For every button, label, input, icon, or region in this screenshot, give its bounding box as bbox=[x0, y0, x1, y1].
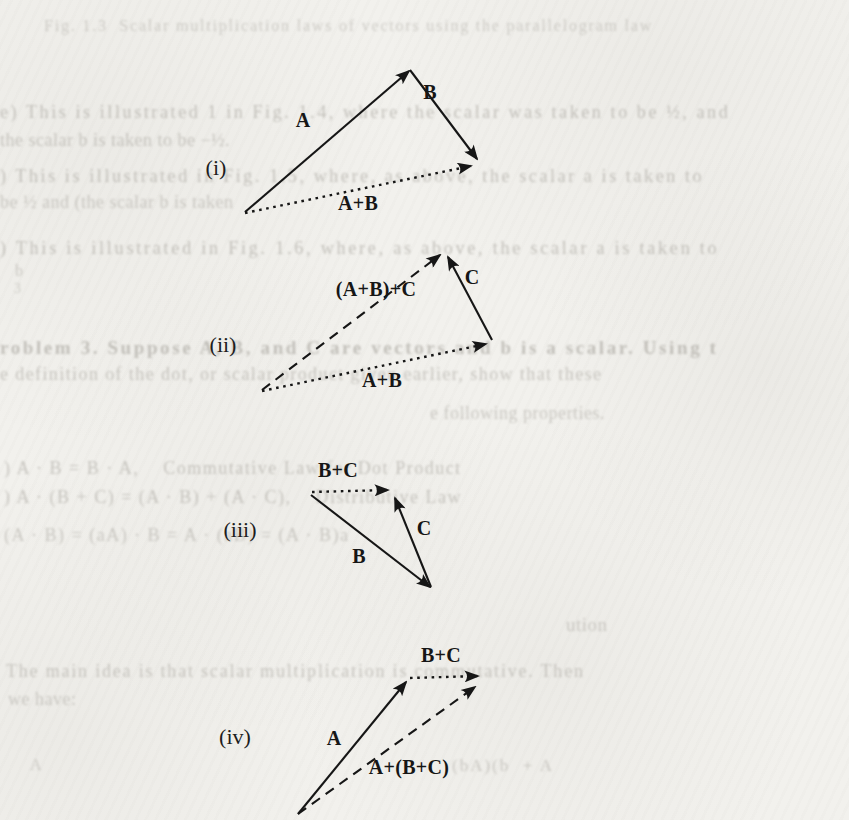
vector-figure: ABA+B(i)(A+B)+CCA+B(ii)B+CBC(iii)B+CAA+(… bbox=[0, 0, 849, 820]
vector-label-i: A bbox=[296, 109, 311, 132]
figure-label-iii: (iii) bbox=[224, 517, 257, 543]
vector-line-dot-iv bbox=[410, 676, 478, 678]
figure-label-iv: (iv) bbox=[219, 724, 251, 750]
scanned-page: Fig. 1.3 Scalar multiplication laws of v… bbox=[0, 0, 849, 820]
figure-label-i: (i) bbox=[206, 155, 227, 181]
vector-label-ii: (A+B)+C bbox=[336, 278, 416, 301]
vector-label-i: A+B bbox=[338, 192, 378, 215]
vector-line-solid-i bbox=[245, 71, 409, 212]
vector-line-solid-iv bbox=[298, 682, 406, 814]
vector-line-dot-iii bbox=[312, 490, 388, 492]
vector-label-iv: A bbox=[327, 727, 342, 750]
figure-label-ii: (ii) bbox=[210, 332, 237, 358]
vector-label-iii: B+C bbox=[318, 459, 358, 482]
vector-label-ii: C bbox=[465, 266, 480, 289]
vector-label-ii: A+B bbox=[362, 369, 402, 392]
vector-label-iii: C bbox=[417, 517, 432, 540]
vector-diagram-canvas bbox=[0, 0, 849, 820]
vector-label-iv: A+(B+C) bbox=[369, 756, 449, 779]
vector-line-solid-i bbox=[410, 70, 477, 159]
vector-line-dash-ii bbox=[262, 255, 440, 390]
vector-label-iii: B bbox=[352, 545, 366, 568]
vector-label-i: B bbox=[423, 81, 437, 104]
vector-label-iv: B+C bbox=[421, 644, 461, 667]
